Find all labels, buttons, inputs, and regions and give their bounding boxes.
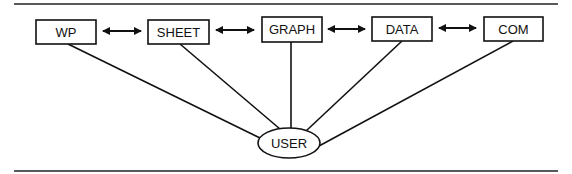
node-graph-label: GRAPH — [269, 22, 315, 37]
node-user-label: USER — [271, 136, 307, 151]
node-sheet-label: SHEET — [157, 25, 200, 40]
node-com: COM — [484, 17, 543, 41]
node-data: DATA — [372, 17, 432, 41]
node-wp-label: WP — [56, 25, 77, 40]
link-com-user — [319, 41, 513, 146]
node-sheet: SHEET — [148, 20, 209, 44]
node-data-label: DATA — [386, 22, 419, 37]
link-sheet-user — [180, 44, 280, 129]
node-wp: WP — [36, 20, 96, 44]
node-com-label: COM — [498, 22, 528, 37]
link-data-user — [306, 41, 402, 131]
node-user: USER — [258, 128, 320, 158]
node-graph: GRAPH — [262, 17, 322, 42]
diagram-canvas: WP SHEET GRAPH DATA COM USER — [0, 0, 572, 174]
link-wp-user — [68, 44, 260, 138]
